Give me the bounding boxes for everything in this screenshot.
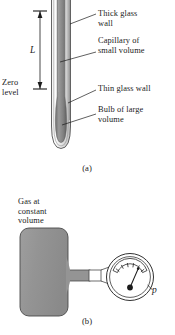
gauge-pivot	[127, 285, 133, 291]
physics-figure: Thick glass wall Capillary of small volu…	[0, 0, 175, 335]
label-length-L: L	[30, 45, 35, 55]
label-pressure-p: p	[152, 285, 157, 295]
label-thick-glass-wall: Thick glass wall	[98, 9, 137, 28]
label-bulb-of-large-volume: Bulb of large volume	[98, 105, 143, 124]
gas-vessel	[20, 228, 68, 316]
label-zero-level: Zero level	[2, 78, 19, 97]
label-capillary: Capillary of small volume	[98, 36, 145, 55]
leader-thick-glass-wall	[70, 14, 96, 24]
label-gas-at-constant-volume: Gas at constant volume	[18, 197, 47, 226]
thermometer-assembly	[33, 0, 96, 149]
connector-tube-coupling	[89, 270, 102, 281]
caption-panel-a: (a)	[67, 163, 107, 173]
leader-thin-glass-wall	[68, 90, 96, 103]
dimension-arrowhead-bottom	[38, 82, 43, 89]
dimension-arrowhead-top	[38, 11, 43, 18]
caption-panel-b: (b)	[67, 316, 107, 326]
gas-apparatus	[20, 228, 154, 316]
gauge-needle-tip	[137, 267, 140, 270]
mercury-column	[55, 0, 66, 143]
label-thin-glass-wall: Thin glass wall	[98, 84, 151, 94]
